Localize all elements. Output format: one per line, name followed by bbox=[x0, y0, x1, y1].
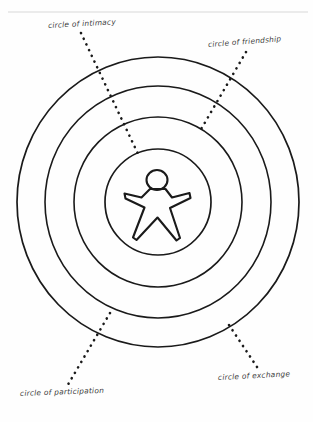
diagram-canvas: circle of intimacy circle of friendship … bbox=[0, 0, 313, 422]
person-head-icon bbox=[147, 170, 168, 190]
circle-of-intimacy-ring bbox=[105, 149, 211, 255]
circles-diagram bbox=[0, 0, 313, 422]
concentric-circle-group bbox=[17, 57, 299, 347]
leader-line-participation bbox=[66, 313, 110, 388]
leader-line-friendship bbox=[200, 52, 246, 131]
leader-line-intimacy bbox=[81, 33, 139, 156]
leader-line-exchange bbox=[229, 325, 259, 370]
person-body-icon bbox=[125, 189, 191, 241]
circle-of-friendship-ring bbox=[74, 117, 242, 287]
circle-of-participation-ring bbox=[45, 86, 271, 318]
circle-of-exchange-ring bbox=[17, 57, 299, 347]
person-figure bbox=[125, 170, 191, 241]
